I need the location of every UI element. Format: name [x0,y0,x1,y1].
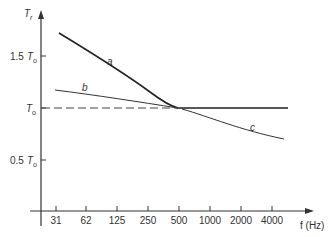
curve-b-label: b [82,82,88,93]
svg-text:4000: 4000 [261,215,284,226]
x-tick-labels: 31 62 125 250 500 1000 2000 4000 [50,215,283,226]
svg-text:31: 31 [50,215,62,226]
curve-c [182,109,284,139]
y-tick-label-1: To [26,103,36,116]
chart: Tr 1.5To To 0.5To 31 62 125 250 500 1000… [0,0,336,237]
x-axis-arrow-icon [305,208,314,214]
svg-text:2000: 2000 [230,215,253,226]
curve-a [59,33,288,108]
svg-text:250: 250 [140,215,157,226]
curve-c-label: c [250,122,255,133]
y-axis-label: Tr [24,8,33,21]
y-axis-arrow-icon [38,10,44,19]
y-tick-label-0.5: 0.5To [10,155,37,168]
svg-text:62: 62 [80,215,92,226]
svg-text:500: 500 [171,215,188,226]
svg-text:1000: 1000 [199,215,222,226]
x-axis-label: f (Hz) [300,220,324,231]
curve-a-label: a [107,56,113,67]
y-tick-label-1.5: 1.5To [10,51,37,64]
svg-text:125: 125 [109,215,126,226]
x-ticks [56,206,272,211]
